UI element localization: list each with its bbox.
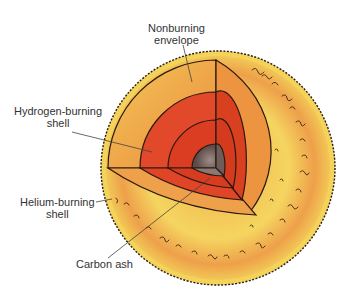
label-line: shell bbox=[14, 117, 102, 129]
label-carbon-ash: Carbon ash bbox=[76, 258, 133, 270]
label-line: shell bbox=[20, 208, 95, 220]
label-helium-shell: Helium-burning shell bbox=[20, 196, 95, 220]
label-line: Nonburning bbox=[148, 22, 205, 34]
label-line: Carbon ash bbox=[76, 258, 133, 270]
label-hydrogen-shell: Hydrogen-burning shell bbox=[14, 105, 102, 129]
label-line: Hydrogen-burning bbox=[14, 105, 102, 117]
label-line: envelope bbox=[148, 34, 205, 46]
label-line: Helium-burning bbox=[20, 196, 95, 208]
label-nonburning-envelope: Nonburning envelope bbox=[148, 22, 205, 46]
